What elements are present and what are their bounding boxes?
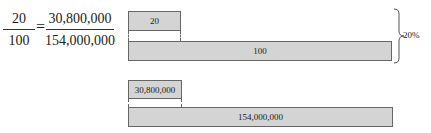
top-whole-label: 100 — [253, 46, 267, 56]
fraction-line — [3, 29, 35, 30]
equals-sign: = — [36, 18, 45, 36]
bottom-whole-bar: 154,000,000 — [128, 107, 393, 127]
fraction-line — [46, 29, 114, 30]
bottom-part-label: 30,800,000 — [135, 85, 176, 95]
top-part-bar: 20 — [128, 11, 181, 31]
top-whole-bar: 100 — [128, 41, 392, 61]
dashed-guide-line — [128, 99, 129, 107]
bottom-part-bar: 30,800,000 — [128, 80, 182, 99]
left-fraction: 20 100 — [3, 10, 35, 49]
right-numerator: 30,800,000 — [49, 10, 112, 27]
left-numerator: 20 — [12, 10, 26, 27]
dashed-guide-line — [180, 31, 181, 41]
percent-label: 20% — [403, 30, 420, 40]
dashed-guide-line — [128, 31, 129, 41]
right-fraction: 30,800,000 154,000,000 — [46, 10, 114, 49]
top-part-label: 20 — [150, 16, 159, 26]
bottom-whole-label: 154,000,000 — [238, 112, 283, 122]
dashed-guide-line — [181, 99, 182, 107]
left-denominator: 100 — [9, 32, 30, 49]
right-denominator: 154,000,000 — [45, 32, 115, 49]
